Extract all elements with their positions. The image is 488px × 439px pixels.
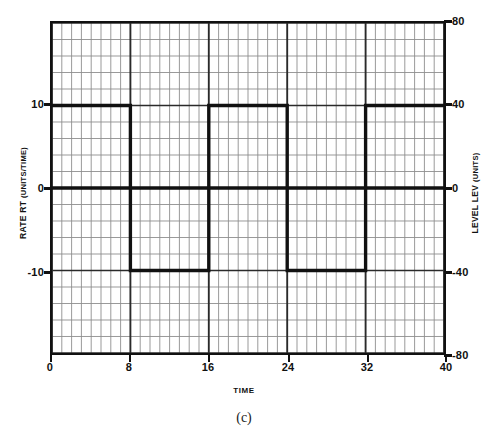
y-left-tickmark-10 xyxy=(44,103,52,106)
plot-area xyxy=(50,21,446,355)
x-tick-0: 0 xyxy=(30,361,70,374)
x-tick-16-label: 16 xyxy=(188,361,228,373)
x-tick-40-label: 40 xyxy=(426,361,466,373)
y-right-tickmark-0 xyxy=(444,187,452,190)
data-series-layer xyxy=(52,23,444,353)
x-tick-0-label: 0 xyxy=(30,361,70,373)
y-right-tick-neg40-label: -40 xyxy=(452,266,469,278)
x-tickmark-16 xyxy=(208,355,210,362)
y-right-tickmark-neg40 xyxy=(444,271,452,274)
x-tick-24-label: 24 xyxy=(268,361,308,373)
y-right-tickmark-80 xyxy=(444,20,452,23)
y-axis-left-title-units: (UNITS/TIME) xyxy=(19,147,28,198)
y-right-tick-80: 80 xyxy=(452,15,486,27)
y-right-tick-40: 40 xyxy=(452,98,486,110)
y-axis-left-title-main: RATE RT xyxy=(18,201,28,239)
y-left-tick-neg10-label: -10 xyxy=(28,266,45,278)
x-tickmark-0 xyxy=(50,355,52,362)
y-left-tick-10: 10 xyxy=(10,98,44,110)
figure-panel: 10 0 -10 80 40 0 -40 -80 0 8 16 24 32 xyxy=(0,0,488,439)
y-right-tick-0: 0 xyxy=(452,182,486,194)
y-left-tickmark-neg10 xyxy=(44,271,52,274)
y-axis-right-title-main: LEVEL LEV xyxy=(470,185,480,234)
x-tick-24: 24 xyxy=(268,361,308,374)
y-axis-right-title: LEVEL LEV (UNITS) xyxy=(470,128,480,258)
x-tickmark-8 xyxy=(129,355,131,362)
x-tick-32: 32 xyxy=(347,361,387,374)
x-tick-8: 8 xyxy=(109,361,149,374)
y-right-tick-40-label: 40 xyxy=(452,98,465,110)
y-right-tick-0-label: 0 xyxy=(452,182,458,194)
x-tick-40: 40 xyxy=(426,361,466,374)
y-axis-right-title-units: (UNITS) xyxy=(471,152,480,182)
x-axis-title: TIME xyxy=(0,386,488,395)
x-tickmark-32 xyxy=(367,355,369,362)
y-right-tick-neg40: -40 xyxy=(452,266,486,278)
x-tickmark-40 xyxy=(445,355,447,362)
y-left-tickmark-0 xyxy=(44,187,52,190)
x-tick-8-label: 8 xyxy=(109,361,149,373)
x-tick-16: 16 xyxy=(188,361,228,374)
x-tick-32-label: 32 xyxy=(347,361,387,373)
y-right-tick-neg80: -80 xyxy=(452,349,486,361)
y-right-tick-80-label: 80 xyxy=(452,15,465,27)
y-left-tick-neg10: -10 xyxy=(10,266,44,278)
figure-caption: (c) xyxy=(0,410,488,426)
y-right-tick-neg80-label: -80 xyxy=(452,349,469,361)
x-tickmark-24 xyxy=(288,355,290,362)
y-right-tickmark-40 xyxy=(444,103,452,106)
y-left-tick-10-label: 10 xyxy=(31,98,44,110)
y-axis-left-title: RATE RT (UNITS/TIME) xyxy=(18,128,28,258)
